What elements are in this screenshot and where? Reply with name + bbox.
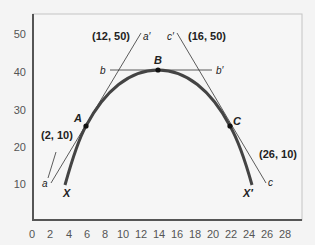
svg-text:6: 6	[84, 228, 90, 240]
label-a-prime: a′	[143, 31, 152, 42]
svg-text:20: 20	[14, 141, 26, 153]
label-b: b	[100, 65, 106, 76]
label-a: a	[42, 178, 48, 189]
svg-text:40: 40	[14, 66, 26, 78]
coord-2-10: (2, 10)	[41, 129, 73, 141]
svg-text:8: 8	[102, 228, 108, 240]
label-A: A	[73, 112, 82, 124]
svg-text:50: 50	[14, 28, 26, 40]
label-b-prime: b′	[216, 65, 225, 76]
point-a	[83, 123, 88, 128]
label-c-prime: c′	[167, 31, 175, 42]
coord-16-50: (16, 50)	[188, 30, 226, 42]
svg-text:20: 20	[207, 228, 219, 240]
label-B: B	[154, 54, 162, 66]
svg-text:24: 24	[243, 228, 255, 240]
label-c: c	[268, 177, 273, 188]
svg-text:26: 26	[261, 228, 273, 240]
point-c	[227, 123, 232, 128]
point-b	[155, 67, 160, 72]
chart: 50 40 30 20 10 0 2 4 6 8 10 12 14 16 18 …	[0, 0, 315, 245]
x-tick-labels: 0 2 4 6 8 10 12 14 16 18 20 22 24 26 28	[29, 228, 291, 240]
svg-text:30: 30	[14, 104, 26, 116]
coord-12-50: (12, 50)	[92, 30, 130, 42]
svg-text:28: 28	[279, 228, 291, 240]
svg-text:12: 12	[135, 228, 147, 240]
svg-text:2: 2	[47, 228, 53, 240]
svg-text:16: 16	[171, 228, 183, 240]
svg-text:18: 18	[189, 228, 201, 240]
label-C: C	[233, 115, 242, 127]
svg-text:10: 10	[117, 228, 129, 240]
coord-26-10: (26, 10)	[259, 148, 297, 160]
svg-text:14: 14	[153, 228, 165, 240]
svg-text:0: 0	[29, 228, 35, 240]
svg-text:4: 4	[66, 228, 72, 240]
label-X: X	[62, 187, 71, 199]
label-X-prime: X′	[242, 187, 254, 199]
svg-text:10: 10	[14, 178, 26, 190]
y-tick-labels: 50 40 30 20 10	[14, 28, 26, 190]
svg-text:22: 22	[225, 228, 237, 240]
